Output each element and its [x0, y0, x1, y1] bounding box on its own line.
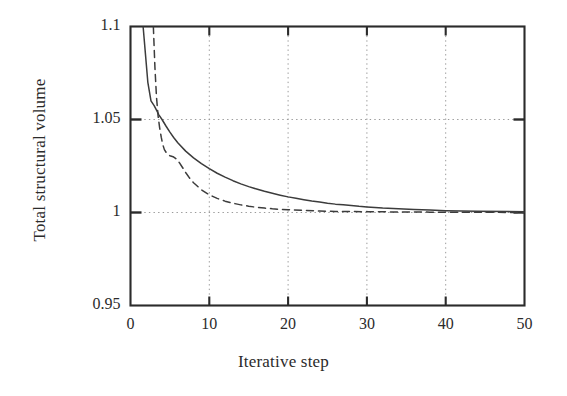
axes-frame [131, 27, 525, 306]
gridlines [131, 27, 525, 306]
plot-svg [0, 0, 567, 396]
axis-ticks [131, 27, 525, 306]
chart-figure: Total structural volume Iterative step 0… [0, 0, 567, 396]
